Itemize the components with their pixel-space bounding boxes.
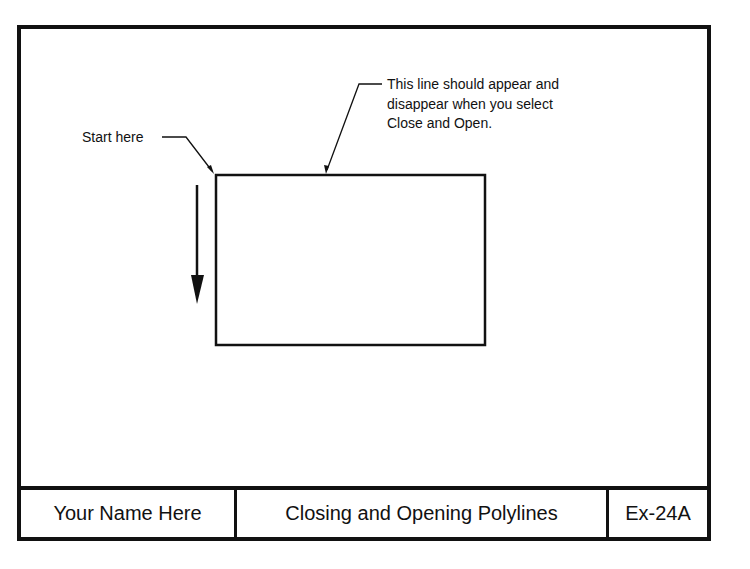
start-here-label: Start here [82,128,143,148]
arrow-down-icon [191,275,204,304]
title-block: Your Name Here Closing and Opening Polyl… [17,486,711,541]
line-note-text-2: disappear when you select [387,95,559,115]
title-block-title: Closing and Opening Polylines [234,490,606,537]
line-note-arrowhead-icon [324,165,329,174]
line-note-leader [327,84,382,170]
line-note: This line should appear and disappear wh… [387,75,559,134]
start-here-leader [162,137,212,171]
drawing-canvas [0,0,750,569]
title-block-name: Your Name Here [17,490,234,537]
line-note-text-1: This line should appear and [387,75,559,95]
line-note-text-3: Close and Open. [387,114,559,134]
polyline-rectangle[interactable] [216,175,485,345]
title-block-code: Ex-24A [606,490,711,537]
